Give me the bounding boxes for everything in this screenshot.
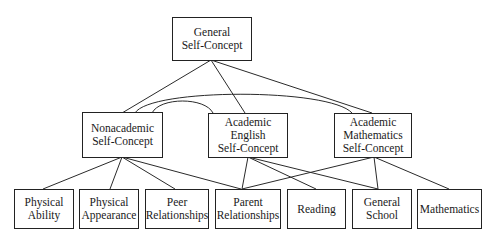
edge-nonacademic-peer <box>122 157 175 189</box>
edge-english-parent <box>242 157 248 189</box>
node-mathematics: Mathematics <box>417 189 482 229</box>
node-label: Parent Relationships <box>217 196 280 222</box>
node-general-self-concept: General Self-Concept <box>172 17 252 61</box>
node-label: Mathematics <box>420 203 479 216</box>
edge-general-nonacademic <box>122 60 211 113</box>
edge-math-parent <box>242 157 374 189</box>
node-nonacademic-self-concept: Nonacademic Self-Concept <box>82 112 163 158</box>
node-label: Physical Ability <box>25 196 64 222</box>
node-parent-relationships: Parent Relationships <box>215 189 281 229</box>
node-physical-ability: Physical Ability <box>14 189 74 229</box>
node-label: Peer Relationships <box>146 196 209 222</box>
node-physical-appearance: Physical Appearance <box>79 189 139 229</box>
edge-nonacademic-physical-ability <box>43 157 122 189</box>
edge-math-general-school <box>374 157 378 189</box>
node-reading: Reading <box>287 189 346 229</box>
node-academic-math-self-concept: Academic Mathematics Self-Concept <box>334 113 412 158</box>
node-label: Academic Mathematics Self-Concept <box>343 116 404 155</box>
edge-math-mathematics <box>374 157 449 189</box>
edge-general-academic-english <box>211 60 245 113</box>
edge-english-reading <box>248 157 316 189</box>
edge-general-academic-math <box>211 60 372 113</box>
node-label: Academic English Self-Concept <box>218 116 279 155</box>
node-peer-relationships: Peer Relationships <box>145 189 209 229</box>
edge-nonacademic-parent <box>122 157 241 189</box>
edge-english-general-school <box>248 157 378 189</box>
edge-nonacademic-physical-appearance <box>110 157 122 189</box>
node-label: General School <box>364 196 400 222</box>
node-label: Physical Appearance <box>82 196 137 222</box>
node-general-school: General School <box>352 189 412 229</box>
node-label: Nonacademic Self-Concept <box>91 122 154 148</box>
node-label: Reading <box>297 203 335 216</box>
node-label: General Self-Concept <box>182 26 243 52</box>
node-academic-english-self-concept: Academic English Self-Concept <box>208 113 288 158</box>
